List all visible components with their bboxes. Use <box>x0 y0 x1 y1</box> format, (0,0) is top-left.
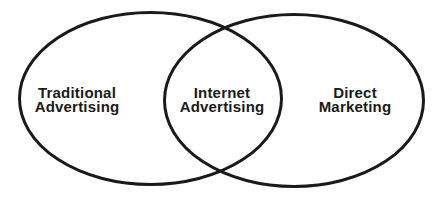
label-line: Marketing <box>295 100 415 114</box>
label-line: Advertising <box>17 100 137 114</box>
internet-advertising-label: Internet Advertising <box>162 86 282 114</box>
direct-marketing-label: Direct Marketing <box>295 86 415 114</box>
traditional-advertising-label: Traditional Advertising <box>17 86 137 114</box>
label-line: Advertising <box>162 100 282 114</box>
